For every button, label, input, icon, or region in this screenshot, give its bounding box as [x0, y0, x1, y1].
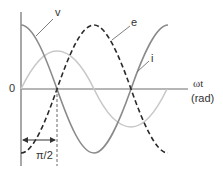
leader-v — [36, 19, 53, 36]
leader-e — [112, 26, 130, 40]
label-rad: (rad) — [191, 93, 214, 104]
label-i: i — [151, 53, 153, 64]
label-omega-t: ωt — [193, 78, 203, 89]
waveform-diagram — [0, 0, 223, 174]
arrow-left-icon — [22, 137, 28, 143]
label-e: e — [131, 17, 137, 28]
label-v: v — [55, 7, 61, 18]
label-zero: 0 — [9, 83, 15, 94]
label-pi-over-2: π/2 — [36, 150, 53, 161]
arrow-right-icon — [50, 137, 56, 143]
